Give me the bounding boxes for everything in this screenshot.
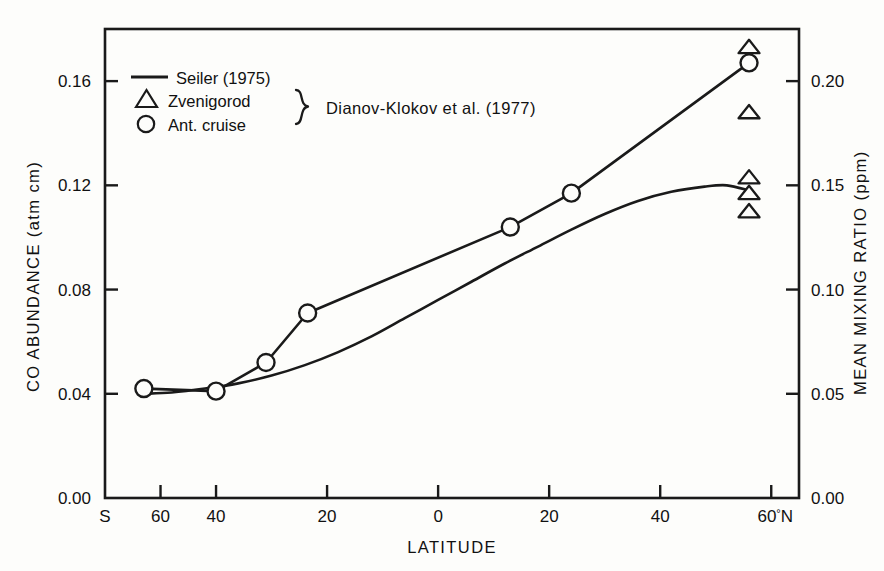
right-tick-label: 0.15 [811, 176, 844, 195]
legend-label-ant-cruise: Ant. cruise [168, 116, 246, 134]
x-tick-label: 0 [433, 507, 442, 526]
legend-label-seiler: Seiler (1975) [176, 69, 270, 87]
series-seiler [144, 185, 749, 394]
data-point-circle [208, 383, 225, 400]
right-axis: 0.000.050.100.150.20 [786, 72, 844, 508]
left-axis-title: CO ABUNDANCE (atm cm) [24, 161, 42, 392]
left-tick-label: 0.00 [58, 489, 91, 508]
bottom-axis: S6040200204060°N [99, 485, 793, 526]
ant-cruise-segment [271, 320, 302, 357]
x-tick-label: 40 [207, 507, 226, 526]
legend-circle-swatch [138, 116, 154, 132]
x-tick-label: S [99, 507, 110, 526]
bottom-axis-title: LATITUDE [407, 538, 497, 556]
left-tick-label: 0.04 [58, 385, 91, 404]
legend-brace [296, 90, 308, 124]
data-point-triangle [739, 170, 760, 183]
x-tick-label: 40 [651, 507, 670, 526]
figure-root: 0.000.040.080.120.16 0.000.050.100.150.2… [0, 0, 884, 571]
data-point-circle [563, 185, 580, 202]
data-point-triangle [739, 105, 760, 118]
right-axis-title: MEAN MIXING RATIO (ppm) [851, 150, 869, 395]
x-tick-label: 20 [540, 507, 559, 526]
left-tick-label: 0.12 [58, 176, 91, 195]
chart-canvas: 0.000.040.080.120.16 0.000.050.100.150.2… [0, 0, 884, 571]
x-tick-label: 60 [151, 507, 170, 526]
right-tick-label: 0.10 [811, 281, 844, 300]
legend-citation: Dianov-Klokov et al. (1977) [326, 99, 536, 117]
legend-label-zvenigorod: Zvenigorod [168, 92, 251, 110]
data-point-circle [299, 305, 316, 322]
ant-cruise-segment [578, 68, 742, 188]
data-point-circle [741, 54, 758, 71]
x-tick-label: 20 [318, 507, 337, 526]
ant-cruise-segment [315, 230, 502, 309]
data-point-circle [258, 354, 275, 371]
data-point-circle [135, 380, 152, 397]
ant-cruise-segment [518, 197, 564, 223]
left-tick-label: 0.08 [58, 281, 91, 300]
data-point-circle [502, 219, 519, 236]
right-tick-label: 0.05 [811, 385, 844, 404]
left-tick-label: 0.16 [58, 72, 91, 91]
legend: Seiler (1975) Zvenigorod Ant. cruise Dia… [131, 69, 536, 134]
right-tick-label: 0.20 [811, 72, 844, 91]
x-tick-label: 60°N [757, 507, 793, 526]
right-tick-label: 0.00 [811, 489, 844, 508]
seiler-curve [144, 185, 749, 394]
data-point-triangle [739, 40, 760, 53]
legend-triangle-swatch [136, 90, 157, 107]
left-axis: 0.000.040.080.120.16 [58, 72, 118, 508]
data-point-triangle [739, 204, 760, 217]
